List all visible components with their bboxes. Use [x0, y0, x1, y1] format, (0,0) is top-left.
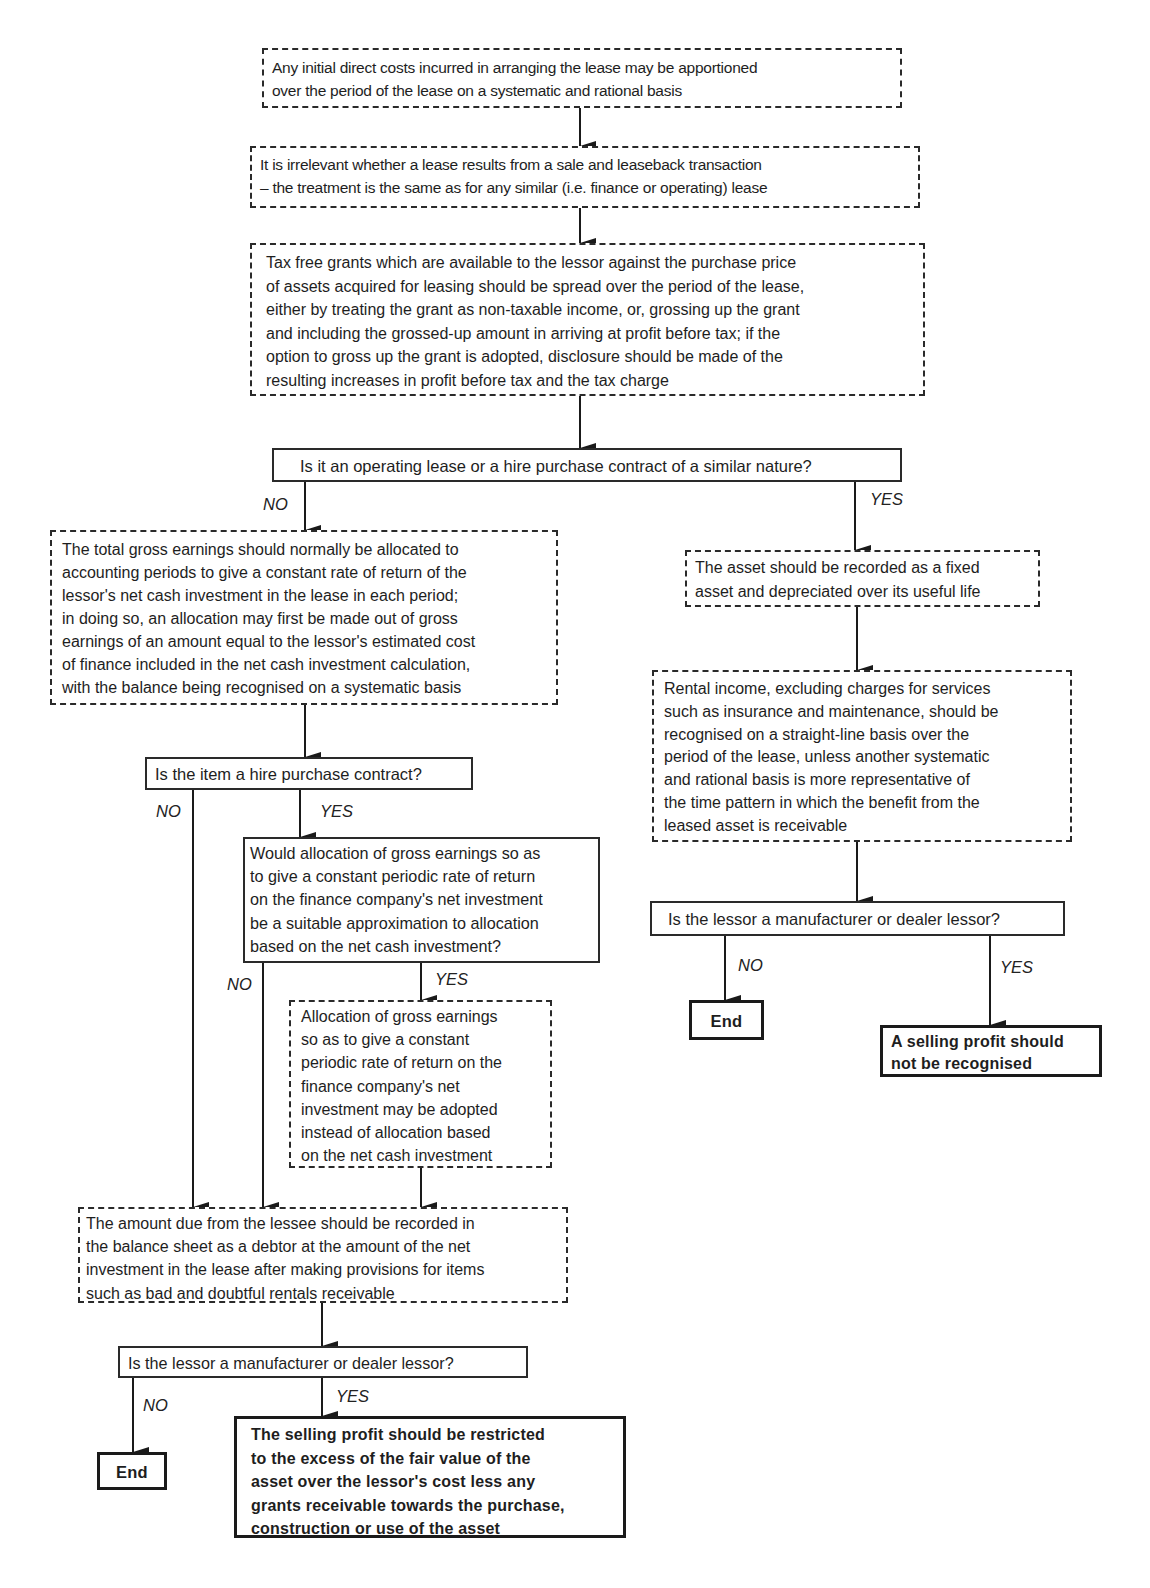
node-text-line: periodic rate of return on the — [301, 1051, 544, 1074]
node-text-line: asset over the lessor's cost less any — [251, 1470, 615, 1494]
node-rental-income: Rental income, excluding charges for ser… — [652, 670, 1072, 842]
label-yes: YES — [870, 490, 903, 509]
node-text-line: to the excess of the fair value of the — [251, 1447, 615, 1471]
node-text-line: in doing so, an allocation may first be … — [62, 607, 548, 630]
node-text-line: leased asset is receivable — [664, 815, 1062, 838]
node-text-line: The asset should be recorded as a fixed — [695, 556, 1030, 580]
decision-allocation-approximation: Would allocation of gross earnings so as… — [243, 837, 600, 963]
node-text-line: finance company's net — [301, 1075, 544, 1098]
node-text-line: The amount due from the lessee should be… — [86, 1212, 560, 1235]
node-text-line: Is the item a hire purchase contract? — [155, 763, 463, 786]
label-yes: YES — [320, 802, 353, 821]
node-text-line: grants receivable towards the purchase, — [251, 1494, 615, 1518]
node-text-line: accounting periods to give a constant ra… — [62, 561, 548, 584]
decision-dealer-lessor-right: Is the lessor a manufacturer or dealer l… — [650, 901, 1065, 936]
node-debtor-recorded: The amount due from the lessee should be… — [78, 1207, 568, 1303]
node-text-line: construction or use of the asset — [251, 1517, 615, 1541]
node-text-line: with the balance being recognised on a s… — [62, 676, 548, 699]
label-no: NO — [143, 1396, 168, 1415]
node-text-line: earnings of an amount equal to the lesso… — [62, 630, 548, 653]
node-text-line: of finance included in the net cash inve… — [62, 653, 548, 676]
node-text-line: over the period of the lease on a system… — [272, 80, 890, 103]
label-no: NO — [263, 495, 288, 514]
node-text-line: resulting increases in profit before tax… — [266, 369, 913, 393]
node-text-line: Rental income, excluding charges for ser… — [664, 678, 1062, 701]
node-text-line: either by treating the grant as non-taxa… — [266, 298, 913, 322]
terminal-end-left: End — [97, 1452, 167, 1490]
node-text-line: the balance sheet as a debtor at the amo… — [86, 1235, 560, 1258]
node-text-line: investment may be adopted — [301, 1098, 544, 1121]
node-text-line: Allocation of gross earnings — [301, 1005, 544, 1028]
node-text-line: the time pattern in which the benefit fr… — [664, 792, 1062, 815]
node-text-line: Any initial direct costs incurred in arr… — [272, 57, 890, 80]
node-text-line: End — [692, 1010, 761, 1033]
node-text-line: Would allocation of gross earnings so as — [250, 842, 592, 865]
node-text-line: on the finance company's net investment — [250, 888, 592, 911]
node-text-line: such as insurance and maintenance, shoul… — [664, 701, 1062, 724]
node-text-line: Is the lessor a manufacturer or dealer l… — [128, 1352, 518, 1375]
node-text-line: End — [100, 1461, 164, 1484]
node-text-line: be a suitable approximation to allocatio… — [250, 912, 592, 935]
node-text-line: The selling profit should be restricted — [251, 1423, 615, 1447]
node-text-line: period of the lease, unless another syst… — [664, 746, 1062, 769]
node-text-line: lessor's net cash investment in the leas… — [62, 584, 548, 607]
terminal-end-right: End — [689, 1000, 764, 1040]
label-yes: YES — [336, 1387, 369, 1406]
node-text-line: The total gross earnings should normally… — [62, 538, 548, 561]
node-gross-earnings: The total gross earnings should normally… — [50, 530, 558, 705]
label-no: NO — [227, 975, 252, 994]
node-text-line: investment in the lease after making pro… — [86, 1258, 560, 1281]
node-initial-direct-costs: Any initial direct costs incurred in arr… — [262, 48, 902, 108]
node-text-line: of assets acquired for leasing should be… — [266, 275, 913, 299]
node-text-line: Is the lessor a manufacturer or dealer l… — [668, 908, 1055, 931]
label-no: NO — [156, 802, 181, 821]
node-text-line: asset and depreciated over its useful li… — [695, 580, 1030, 604]
node-text-line: not be recognised — [891, 1053, 1093, 1075]
node-text-line: – the treatment is the same as for any s… — [260, 177, 908, 200]
node-sale-and-leaseback: It is irrelevant whether a lease results… — [250, 146, 920, 208]
node-text-line: instead of allocation based — [301, 1121, 544, 1144]
node-text-line: and rational basis is more representativ… — [664, 769, 1062, 792]
label-yes: YES — [1000, 958, 1033, 977]
node-text-line: Is it an operating lease or a hire purch… — [300, 455, 890, 478]
node-tax-free-grants: Tax free grants which are available to t… — [250, 243, 925, 396]
node-allocation-adopted: Allocation of gross earnings so as to gi… — [289, 1000, 552, 1168]
node-text-line: and including the grossed-up amount in a… — [266, 322, 913, 346]
decision-hire-purchase: Is the item a hire purchase contract? — [145, 757, 473, 790]
node-text-line: on the net cash investment — [301, 1144, 544, 1167]
node-text-line: option to gross up the grant is adopted,… — [266, 345, 913, 369]
decision-operating-lease: Is it an operating lease or a hire purch… — [272, 448, 902, 482]
decision-dealer-lessor-left: Is the lessor a manufacturer or dealer l… — [118, 1346, 528, 1378]
flowchart: Any initial direct costs incurred in arr… — [0, 0, 1150, 1588]
node-text-line: so as to give a constant — [301, 1028, 544, 1051]
node-text-line: to give a constant periodic rate of retu… — [250, 865, 592, 888]
terminal-selling-profit-restricted: The selling profit should be restricted … — [234, 1416, 626, 1538]
node-text-line: It is irrelevant whether a lease results… — [260, 154, 908, 177]
node-text-line: Tax free grants which are available to t… — [266, 251, 913, 275]
label-yes: YES — [435, 970, 468, 989]
node-text-line: such as bad and doubtful rentals receiva… — [86, 1282, 560, 1305]
terminal-no-selling-profit: A selling profit should not be recognise… — [880, 1025, 1102, 1077]
label-no: NO — [738, 956, 763, 975]
node-text-line: A selling profit should — [891, 1031, 1093, 1053]
node-text-line: recognised on a straight-line basis over… — [664, 724, 1062, 747]
node-text-line: based on the net cash investment? — [250, 935, 592, 958]
node-fixed-asset: The asset should be recorded as a fixed … — [685, 550, 1040, 607]
